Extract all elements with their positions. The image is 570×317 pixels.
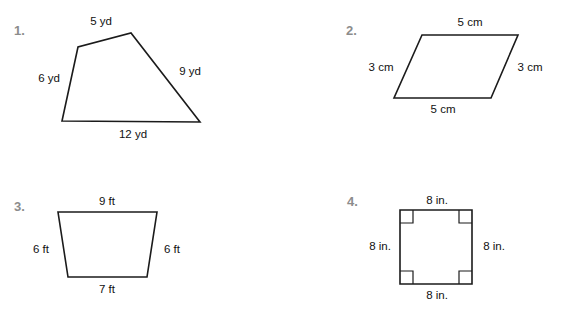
right-angle-mark-bottom-left bbox=[400, 271, 413, 284]
problem-2-bottom-label: 5 cm bbox=[431, 104, 456, 116]
trapezoid-outline bbox=[58, 212, 157, 277]
geometry-worksheet: 1. 5 yd 6 yd 9 yd 12 yd 2. 5 cm 3 cm 3 c… bbox=[0, 0, 570, 317]
problem-1-right-label: 9 yd bbox=[179, 66, 201, 78]
square-outline bbox=[400, 210, 472, 284]
problem-2-right-label: 3 cm bbox=[518, 62, 543, 74]
problem-4-top-label: 8 in. bbox=[426, 195, 448, 207]
problem-3: 3. 9 ft 6 ft 6 ft 7 ft bbox=[0, 160, 285, 317]
problem-1-left-label: 6 yd bbox=[38, 73, 60, 85]
problem-2-top-label: 5 cm bbox=[458, 17, 483, 29]
problem-2-left-label: 3 cm bbox=[369, 62, 394, 74]
problem-1: 1. 5 yd 6 yd 9 yd 12 yd bbox=[0, 0, 285, 160]
problem-3-left-label: 6 ft bbox=[33, 244, 49, 256]
problem-4-right-label: 8 in. bbox=[483, 241, 505, 253]
problem-4-bottom-label: 8 in. bbox=[426, 290, 448, 302]
problem-3-trapezoid-figure bbox=[0, 160, 285, 317]
problem-4: 4. 8 in. 8 in. 8 in. 8 in. bbox=[285, 160, 570, 317]
problem-3-top-label: 9 ft bbox=[99, 196, 115, 208]
problem-3-right-label: 6 ft bbox=[164, 244, 180, 256]
problem-2: 2. 5 cm 3 cm 3 cm 5 cm bbox=[285, 0, 570, 160]
problem-2-parallelogram-figure bbox=[285, 0, 570, 160]
problem-1-top-label: 5 yd bbox=[90, 16, 112, 28]
right-angle-mark-bottom-right bbox=[459, 271, 472, 284]
problem-4-left-label: 8 in. bbox=[369, 241, 391, 253]
problem-3-bottom-label: 7 ft bbox=[99, 284, 115, 296]
parallelogram-outline bbox=[394, 35, 518, 98]
right-angle-mark-top-right bbox=[459, 210, 472, 223]
problem-1-bottom-label: 12 yd bbox=[119, 129, 147, 141]
right-angle-mark-top-left bbox=[400, 210, 413, 223]
